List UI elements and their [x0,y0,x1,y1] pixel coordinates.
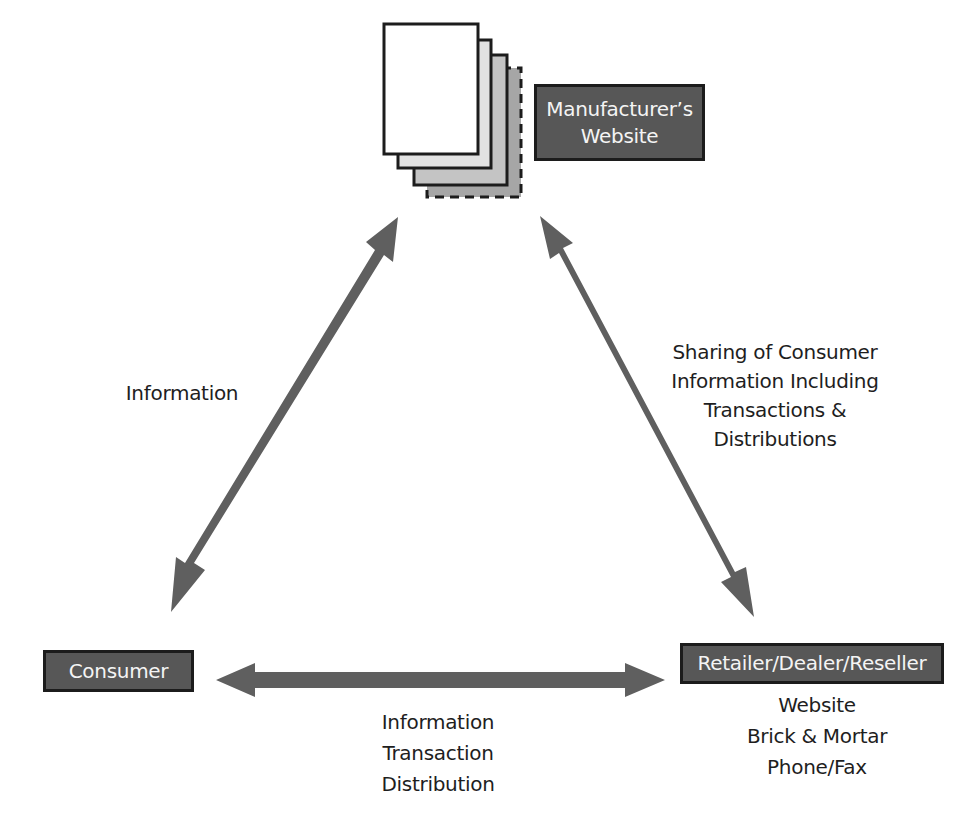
arrow-consumer-retailer [216,663,665,697]
edge-label-manufacturer-retailer: Sharing of Consumer Information Includin… [650,338,900,454]
node-manufacturer-website: Manufacturer’s Website [534,84,705,161]
retailer-channels: Website Brick & Mortar Phone/Fax [717,690,917,783]
edge-label-line-3: Distribution [358,769,518,800]
node-manufacturer-line-2: Website [581,123,659,150]
edge-label-line-4: Distributions [650,425,900,454]
node-manufacturer-line-1: Manufacturer’s [546,96,693,123]
edge-label-line-3: Transactions & [650,396,900,425]
edge-label-consumer-manufacturer: Information [102,378,262,408]
node-retailer-label: Retailer/Dealer/Reseller [697,650,926,677]
edge-label-line-1: Information [358,707,518,738]
edge-label-line-2: Transaction [358,738,518,769]
node-consumer: Consumer [43,650,194,692]
website-pages-icon [384,24,521,197]
edge-label-line-1: Sharing of Consumer [650,338,900,367]
page-1 [384,24,478,154]
node-retailer: Retailer/Dealer/Reseller [680,643,944,684]
retailer-channel-brick-mortar: Brick & Mortar [717,721,917,752]
edge-label-line-2: Information Including [650,367,900,396]
arrow-consumer-manufacturer [171,217,398,612]
retailer-channel-phone-fax: Phone/Fax [717,752,917,783]
edge-label-text: Information [102,378,262,408]
retailer-channel-website: Website [717,690,917,721]
double-arrow-icon [216,663,665,697]
edge-label-consumer-retailer: Information Transaction Distribution [358,707,518,800]
double-arrow-icon [171,217,398,612]
node-consumer-label: Consumer [69,658,169,685]
